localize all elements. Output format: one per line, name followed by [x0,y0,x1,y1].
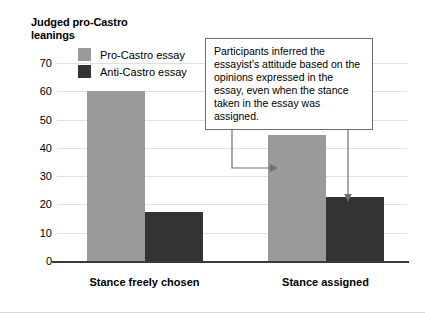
y-axis-title-line-2: leanings [31,29,191,42]
legend-item-anti-castro: Anti-Castro essay [78,63,187,80]
legend-swatch-pro-castro-icon [78,48,91,61]
y-axis-tick-label: 40 [6,142,52,154]
x-axis-category-label: Stance assigned [282,276,369,288]
y-axis-title-line-1: Judged pro-Castro [31,16,191,29]
bar-chart-figure: Judged pro-Castro leanings Pro-Castro es… [0,0,425,313]
legend-swatch-anti-castro-icon [78,65,91,78]
y-axis-tick-label: 0 [6,255,52,267]
legend-label-pro-castro: Pro-Castro essay [100,49,185,61]
x-axis-category-label: Stance freely chosen [89,276,199,288]
annotation-callout-text: Participants inferred the essayist's att… [214,45,360,122]
y-axis-tick-label: 10 [6,227,52,239]
y-axis-tick-label: 50 [6,114,52,126]
x-axis-line [52,261,409,263]
y-axis-title: Judged pro-Castro leanings [31,16,191,42]
y-axis-tick-labels: 010203040506070 [0,63,52,261]
y-axis-tick-label: 70 [6,57,52,69]
legend-item-pro-castro: Pro-Castro essay [78,46,187,63]
bar-pro-castro-group-1 [87,91,145,261]
bar-anti-castro-group-2 [326,197,384,261]
y-axis-tick-label: 20 [6,198,52,210]
bar-anti-castro-group-1 [145,212,203,262]
y-axis-tick-label: 60 [6,85,52,97]
chart-legend: Pro-Castro essay Anti-Castro essay [78,46,187,80]
bar-pro-castro-group-2 [268,135,326,261]
annotation-callout: Participants inferred the essayist's att… [205,38,373,130]
y-axis-tick-label: 30 [6,170,52,182]
legend-label-anti-castro: Anti-Castro essay [100,66,187,78]
